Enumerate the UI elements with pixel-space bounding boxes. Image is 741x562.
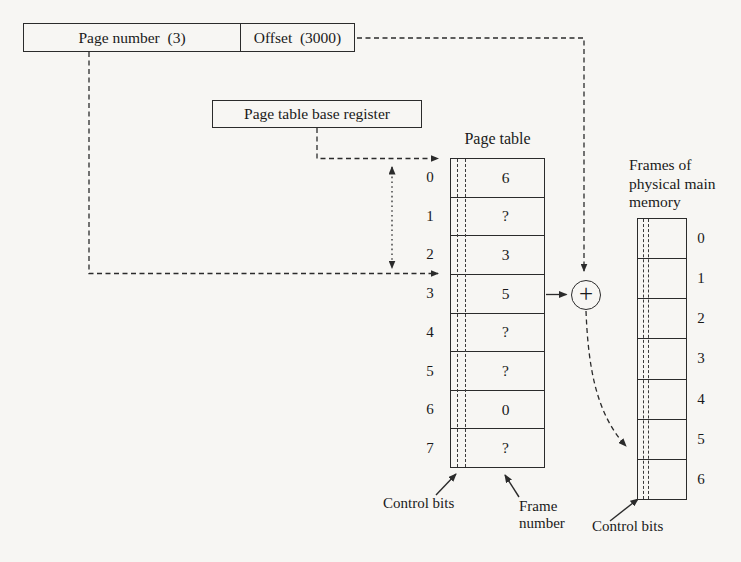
frame-indices: 0 1 2 3 4 5 6 — [691, 218, 711, 500]
offset-field: Offset (3000) — [241, 24, 354, 51]
page-table-index: 5 — [419, 352, 441, 391]
page-table-index: 6 — [419, 391, 441, 430]
control-bits-label-memory: Control bits — [592, 518, 663, 535]
page-table-row-indices: 0 1 2 3 4 5 6 7 — [419, 158, 441, 468]
memory-frame — [638, 419, 686, 459]
page-table: 6 ? 3 5 ? ? 0 ? — [450, 158, 545, 468]
physical-memory-title-line: physical main — [629, 175, 741, 194]
control-bits-divider — [648, 219, 649, 499]
page-table-index: 2 — [419, 236, 441, 275]
base-register-to-table-connector — [317, 128, 438, 159]
control-bits-divider — [457, 159, 458, 467]
control-bits-label-page-table: Control bits — [383, 495, 454, 512]
page-table-base-register-box: Page table base register — [212, 100, 422, 128]
control-bits-divider — [643, 219, 644, 499]
frame-index: 4 — [691, 379, 711, 419]
memory-frame — [638, 258, 686, 298]
plus-icon: + — [579, 281, 593, 306]
page-number-to-row3-connector — [89, 52, 438, 274]
memory-frame — [638, 459, 686, 499]
frame-index: 0 — [691, 218, 711, 258]
page-table-index: 3 — [419, 274, 441, 313]
physical-memory-title-line: memory — [629, 193, 741, 212]
frame-index: 2 — [691, 299, 711, 339]
adder-to-frame-connector — [586, 311, 626, 446]
physical-memory-title: Frames of physical main memory — [629, 156, 741, 212]
memory-frame — [638, 379, 686, 419]
physical-memory-title-line: Frames of — [629, 156, 741, 175]
frame-index: 3 — [691, 339, 711, 379]
frame-index: 5 — [691, 419, 711, 459]
adder-node: + — [571, 280, 601, 310]
memory-frame — [638, 298, 686, 338]
memory-frame — [638, 219, 686, 258]
page-table-title: Page table — [445, 130, 550, 148]
connector-lines — [0, 0, 741, 562]
virtual-address-box: Page number (3) Offset (3000) — [23, 23, 355, 52]
frame-index: 6 — [691, 460, 711, 500]
frame-number-pointer-arrow — [505, 475, 519, 497]
physical-memory-frames — [637, 218, 687, 500]
page-table-index: 0 — [419, 158, 441, 197]
control-bits-left-pointer-arrow — [436, 474, 456, 495]
control-bits-divider — [465, 159, 466, 467]
page-table-index: 1 — [419, 197, 441, 236]
paging-address-translation-diagram: Page number (3) Offset (3000) Page table… — [0, 0, 741, 562]
frame-number-label-line: number — [519, 515, 565, 532]
page-table-index: 4 — [419, 313, 441, 352]
frame-index: 1 — [691, 258, 711, 298]
frame-number-label-line: Frame — [519, 498, 565, 515]
page-number-field: Page number (3) — [24, 24, 241, 51]
memory-frame — [638, 338, 686, 378]
page-table-index: 7 — [419, 429, 441, 468]
frame-number-label: Frame number — [519, 498, 565, 531]
